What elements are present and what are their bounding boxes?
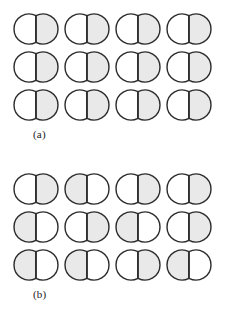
oval-half-right <box>138 90 160 120</box>
oval-half-right <box>189 90 211 120</box>
bipartite-oval-r3-c3 <box>118 250 158 280</box>
oval-half-left <box>167 212 189 242</box>
oval-half-right <box>189 174 211 204</box>
bipartite-oval-r2-c1 <box>16 52 56 82</box>
bipartite-oval-r3-c3 <box>118 90 158 120</box>
oval-half-right <box>138 14 160 44</box>
oval-half-left <box>65 174 87 204</box>
oval-half-right <box>87 174 109 204</box>
bipartite-oval-r1-c1 <box>16 174 56 204</box>
oval-half-left <box>116 174 138 204</box>
oval-half-left <box>14 90 36 120</box>
bipartite-oval-r2-c4 <box>169 212 209 242</box>
oval-half-left <box>14 250 36 280</box>
bipartite-oval-r2-c2 <box>67 212 107 242</box>
panel-b: (b) <box>0 160 227 316</box>
oval-half-left <box>65 250 87 280</box>
bipartite-oval-r1-c2 <box>67 14 107 44</box>
oval-half-right <box>138 52 160 82</box>
panel-a-label: (a) <box>33 128 46 140</box>
oval-half-left <box>116 90 138 120</box>
oval-half-right <box>36 250 58 280</box>
oval-half-right <box>87 52 109 82</box>
oval-half-right <box>36 174 58 204</box>
oval-half-right <box>36 90 58 120</box>
oval-half-left <box>14 212 36 242</box>
oval-half-right <box>36 212 58 242</box>
bipartite-oval-r2-c1 <box>16 212 56 242</box>
oval-half-left <box>116 14 138 44</box>
bipartite-oval-r3-c4 <box>169 90 209 120</box>
oval-half-left <box>116 250 138 280</box>
shape-grid-a <box>16 14 209 120</box>
bipartite-oval-r1-c4 <box>169 174 209 204</box>
oval-half-right <box>87 212 109 242</box>
panel-a: (a) <box>0 0 227 156</box>
oval-half-left <box>167 14 189 44</box>
oval-half-right <box>189 212 211 242</box>
oval-half-left <box>65 14 87 44</box>
bipartite-oval-r1-c4 <box>169 14 209 44</box>
bipartite-oval-r3-c2 <box>67 250 107 280</box>
oval-half-right <box>189 52 211 82</box>
oval-half-left <box>167 52 189 82</box>
oval-half-left <box>116 212 138 242</box>
bipartite-oval-r1-c2 <box>67 174 107 204</box>
bipartite-oval-r2-c3 <box>118 212 158 242</box>
oval-half-left <box>116 52 138 82</box>
bipartite-oval-r3-c4 <box>169 250 209 280</box>
oval-half-left <box>14 174 36 204</box>
bipartite-oval-r2-c3 <box>118 52 158 82</box>
oval-half-right <box>138 250 160 280</box>
oval-half-right <box>189 250 211 280</box>
shape-grid-b <box>16 174 209 280</box>
oval-half-left <box>65 90 87 120</box>
bipartite-oval-r2-c2 <box>67 52 107 82</box>
oval-half-right <box>138 174 160 204</box>
bipartite-oval-r1-c3 <box>118 14 158 44</box>
figure-root: (a) (b) <box>0 0 227 316</box>
bipartite-oval-r3-c2 <box>67 90 107 120</box>
oval-half-right <box>36 14 58 44</box>
oval-half-left <box>167 174 189 204</box>
oval-half-right <box>87 14 109 44</box>
oval-half-right <box>138 212 160 242</box>
oval-half-left <box>167 90 189 120</box>
oval-half-right <box>87 90 109 120</box>
oval-half-right <box>36 52 58 82</box>
panel-b-label: (b) <box>33 288 46 300</box>
oval-half-left <box>167 250 189 280</box>
oval-half-right <box>189 14 211 44</box>
oval-half-left <box>65 212 87 242</box>
oval-half-left <box>14 14 36 44</box>
oval-half-left <box>65 52 87 82</box>
bipartite-oval-r1-c1 <box>16 14 56 44</box>
bipartite-oval-r3-c1 <box>16 90 56 120</box>
bipartite-oval-r2-c4 <box>169 52 209 82</box>
oval-half-right <box>87 250 109 280</box>
bipartite-oval-r3-c1 <box>16 250 56 280</box>
bipartite-oval-r1-c3 <box>118 174 158 204</box>
oval-half-left <box>14 52 36 82</box>
